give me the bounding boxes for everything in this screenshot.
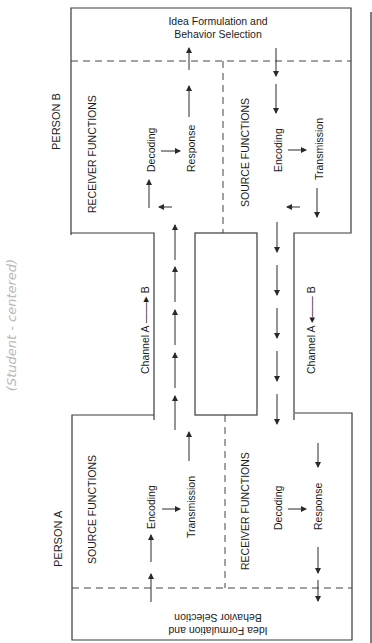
- person-a-decoding: Decoding: [272, 485, 284, 530]
- person-a-idea-line2: Behavior Selection: [174, 612, 262, 624]
- person-a-source-title: SOURCE FUNCTIONS: [86, 455, 98, 564]
- person-b-decoding: Decoding: [145, 127, 157, 172]
- person-b-receiver-title: RECEIVER FUNCTIONS: [86, 95, 98, 213]
- channel-b-to-a-label: Channel A ◂—— B: [305, 286, 317, 374]
- person-b-idea-line2: Behavior Selection: [174, 28, 262, 40]
- person-a-arrows: [151, 432, 318, 602]
- channel-center-box: [195, 233, 257, 415]
- person-a-receiver-title: RECEIVER FUNCTIONS: [239, 452, 251, 570]
- person-a-transmission: Transmission: [185, 476, 197, 538]
- person-a-response: Response: [312, 483, 324, 530]
- communication-model-diagram: Idea Formulation and Behavior Selection …: [0, 0, 372, 643]
- person-a-encoding: Encoding: [145, 485, 157, 529]
- person-b-encoding: Encoding: [272, 128, 284, 172]
- handwritten-annotation: (Student - centered): [4, 259, 19, 391]
- person-b-transmission: Transmission: [313, 118, 325, 180]
- person-b-source-title: SOURCE FUNCTIONS: [239, 98, 251, 207]
- person-b-response: Response: [185, 125, 197, 172]
- person-a-label: PERSON A: [52, 510, 64, 567]
- channel-a-to-b-label: Channel A ——▸ B: [139, 286, 151, 374]
- person-b-label: PERSON B: [50, 93, 62, 150]
- person-b-idea-line1: Idea Formulation and: [168, 15, 267, 27]
- person-a-outline: [72, 413, 352, 640]
- person-a-idea-line1: Idea Formulation and: [168, 625, 267, 637]
- person-b-arrows: [149, 48, 317, 217]
